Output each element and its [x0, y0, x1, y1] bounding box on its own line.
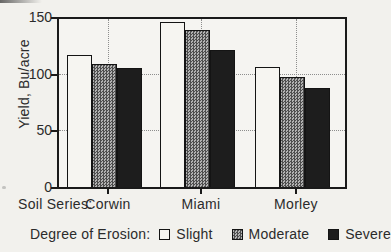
bar-miami-moderate [185, 30, 210, 187]
legend-item-moderate: Moderate [232, 226, 310, 242]
ytick-label-50: 50 [0, 122, 52, 138]
ytick-label-0: 0 [0, 179, 52, 195]
bar-morley-slight [255, 67, 280, 187]
bar-morley-moderate [280, 77, 305, 187]
xtick-mark-corwin [107, 189, 109, 194]
bar-miami-slight [160, 22, 185, 187]
scan-artifact [0, 0, 42, 3]
ytick-label-150: 150 [0, 9, 52, 25]
bar-corwin-severe [117, 68, 142, 187]
category-label-miami: Miami [182, 196, 221, 212]
legend-item-slight: Slight [159, 226, 212, 242]
ytick-label-100: 100 [0, 66, 52, 82]
x-axis-title: Soil Series: [18, 196, 92, 212]
bar-morley-severe [305, 88, 330, 187]
bar-miami-severe [210, 50, 235, 187]
xtick-mark-morley [295, 189, 297, 194]
y-axis-title: Yield, Bu/acre [16, 34, 32, 134]
legend-label-slight: Slight [176, 226, 212, 242]
legend-item-severe: Severe [328, 226, 391, 242]
legend-swatch-moderate [232, 229, 243, 240]
legend-label-severe: Severe [345, 226, 391, 242]
category-label-morley: Morley [274, 196, 318, 212]
legend-swatch-slight [159, 229, 170, 240]
legend: Degree of Erosion: SlightModerateSevere [30, 226, 362, 242]
legend-label-moderate: Moderate [249, 226, 310, 242]
category-label-corwin: Corwin [85, 196, 130, 212]
legend-swatch-severe [328, 229, 339, 240]
plot-area [57, 17, 347, 189]
legend-title: Degree of Erosion: [30, 226, 150, 242]
bar-corwin-slight [67, 55, 92, 187]
bar-corwin-moderate [92, 64, 117, 187]
xtick-mark-miami [200, 189, 202, 194]
